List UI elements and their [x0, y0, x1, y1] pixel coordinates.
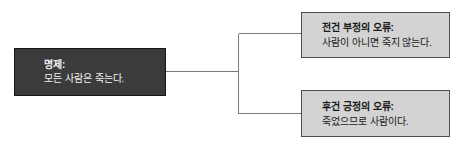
fallacy-box-denying-antecedent: 전건 부정의 오류: 사람이 아니면 죽지 않는다.	[301, 12, 450, 58]
fallacy-title: 후건 긍정의 오류:	[322, 99, 449, 114]
fallacy-box-affirming-consequent: 후건 긍정의 오류: 죽었으므로 사람이다.	[301, 90, 450, 137]
proposition-box: 명제: 모든 사람은 죽는다.	[14, 48, 166, 96]
fallacy-title: 전건 부정의 오류:	[322, 20, 449, 35]
logic-fallacy-diagram: 명제: 모든 사람은 죽는다. 전건 부정의 오류: 사람이 아니면 죽지 않는…	[0, 0, 468, 146]
fallacy-body: 사람이 아니면 죽지 않는다.	[322, 35, 449, 50]
proposition-body: 모든 사람은 죽는다.	[44, 72, 165, 86]
fallacy-body: 죽었으므로 사람이다.	[322, 114, 449, 129]
proposition-title: 명제:	[44, 58, 165, 72]
